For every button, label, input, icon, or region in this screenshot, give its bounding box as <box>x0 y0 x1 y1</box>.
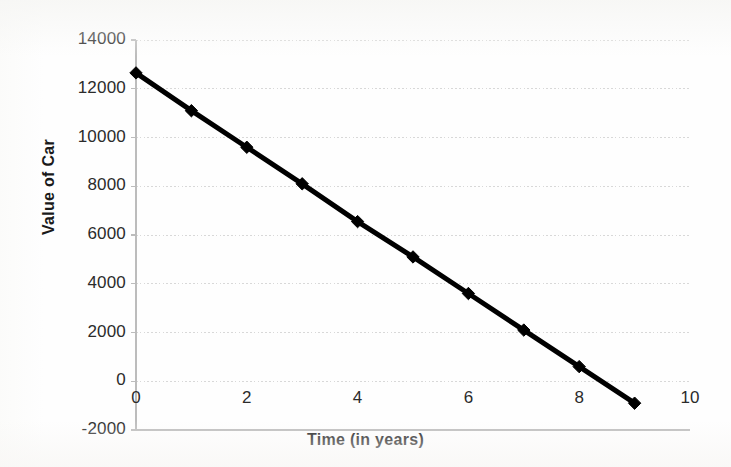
y-axis-tick-label: 14000 <box>78 29 126 49</box>
x-axis-tick-label: 4 <box>328 388 388 408</box>
y-axis-tick-label: 6000 <box>87 224 126 244</box>
y-axis-tick-label: 12000 <box>78 78 126 98</box>
y-axis-tick-label: 2000 <box>87 322 126 342</box>
x-axis-tick-label: 10 <box>660 388 720 408</box>
x-axis-tick-label: 6 <box>438 388 498 408</box>
x-axis-title: Time (in years) <box>0 431 731 449</box>
y-axis-title: Value of Car <box>40 117 58 257</box>
x-axis-tick-label: 2 <box>217 388 277 408</box>
y-axis-tick-label: 8000 <box>87 175 126 195</box>
y-axis-tick-label: 10000 <box>78 127 126 147</box>
x-axis-tick-label: 8 <box>549 388 609 408</box>
x-axis-tick-label: 0 <box>106 388 166 408</box>
chart-figure: -200002000400060008000100001200014000024… <box>0 0 731 467</box>
y-axis-tick-label: 4000 <box>87 273 126 293</box>
series-line-value-of-car <box>136 73 635 403</box>
